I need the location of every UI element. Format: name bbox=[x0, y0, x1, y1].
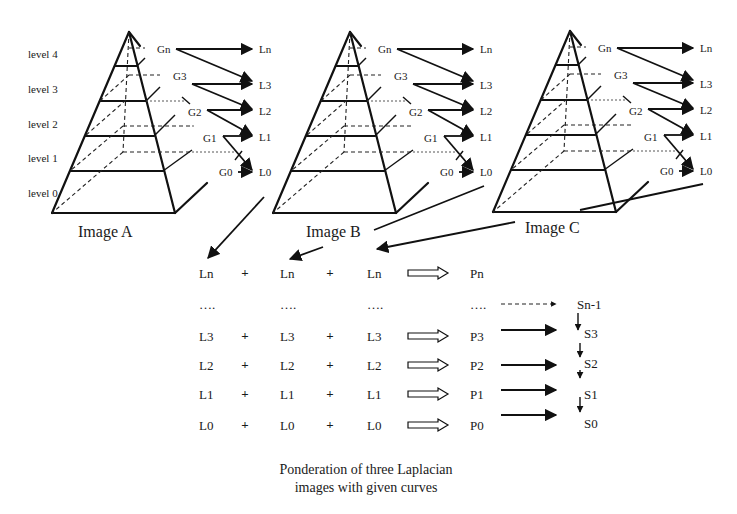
sum-label: S1 bbox=[584, 387, 598, 402]
sum-column: Sn-1 S3 S2 S1 S0 bbox=[501, 297, 602, 431]
pyramid-image-b: Gn G3 G2 G1 G0 Ln L3 L2 L1 L0 Image B bbox=[273, 32, 493, 241]
plus-icon: + bbox=[241, 386, 248, 401]
combination-table: LnLnLnPn++….….….….L3L3L3P3++L2L2L2P2++L1… bbox=[199, 265, 486, 433]
cell-b: Ln bbox=[280, 266, 295, 281]
laplacian-label: Ln bbox=[480, 43, 493, 55]
laplacian-label: L1 bbox=[700, 130, 712, 142]
plus-icon: + bbox=[326, 328, 333, 343]
laplacian-label: L0 bbox=[480, 166, 493, 178]
pyramid-image-c: Gn G3 G2 G1 G0 Ln L3 L2 L1 L0 Image C bbox=[493, 31, 713, 237]
gaussian-label: G3 bbox=[394, 70, 408, 82]
caption-line-1: Ponderation of three Laplacian bbox=[280, 462, 453, 477]
hollow-arrow-icon bbox=[408, 267, 448, 279]
cell-b: L0 bbox=[280, 418, 294, 433]
gaussian-label: G1 bbox=[203, 132, 216, 144]
cell-b: L2 bbox=[280, 358, 294, 373]
level-label: level 4 bbox=[28, 48, 58, 60]
sum-label: S2 bbox=[584, 356, 598, 371]
gaussian-label: Gn bbox=[157, 43, 171, 55]
pyramid-title: Image C bbox=[525, 219, 580, 237]
cell-a: …. bbox=[199, 297, 215, 312]
cell-b: …. bbox=[280, 297, 296, 312]
laplacian-label: L0 bbox=[259, 166, 272, 178]
cell-p: P1 bbox=[470, 387, 484, 402]
cell-p: P3 bbox=[470, 329, 484, 344]
sum-label: S3 bbox=[584, 326, 598, 341]
gaussian-label: G0 bbox=[440, 166, 454, 178]
laplacian-label: L2 bbox=[700, 104, 712, 116]
caption: Ponderation of three Laplacian images wi… bbox=[280, 462, 453, 495]
gaussian-label: G1 bbox=[644, 131, 657, 143]
gaussian-label: G2 bbox=[409, 106, 422, 118]
gaussian-label: G2 bbox=[188, 106, 201, 118]
cell-a: Ln bbox=[199, 266, 214, 281]
level-label: level 1 bbox=[28, 152, 58, 164]
cell-a: L1 bbox=[199, 387, 213, 402]
laplacian-label: Ln bbox=[259, 43, 272, 55]
level-label: level 0 bbox=[28, 187, 58, 199]
cell-a: L0 bbox=[199, 418, 213, 433]
laplacian-label: Ln bbox=[700, 42, 713, 54]
level-label: level 3 bbox=[28, 83, 58, 95]
cell-p: P2 bbox=[470, 358, 484, 373]
hollow-arrow-icon bbox=[408, 388, 448, 400]
gaussian-label: G0 bbox=[219, 166, 233, 178]
pyramid-to-table-connectors bbox=[208, 184, 703, 259]
cell-c: …. bbox=[367, 297, 383, 312]
hollow-arrow-icon bbox=[408, 330, 448, 342]
plus-icon: + bbox=[241, 328, 248, 343]
cell-p: Pn bbox=[470, 266, 484, 281]
cell-p: P0 bbox=[470, 418, 484, 433]
cell-a: L2 bbox=[199, 358, 213, 373]
laplacian-label: L3 bbox=[259, 79, 272, 91]
cell-c: L0 bbox=[367, 418, 381, 433]
level-labels: level 4 level 3 level 2 level 1 level 0 bbox=[28, 48, 58, 199]
laplacian-label: L1 bbox=[259, 131, 271, 143]
laplacian-pyramid-fusion-diagram: level 4 level 3 level 2 level 1 level 0 bbox=[0, 0, 737, 514]
plus-icon: + bbox=[326, 386, 333, 401]
pyramid-title: Image A bbox=[78, 223, 133, 241]
pyramid-image-a: Gn G3 G2 G1 G0 Ln L3 L2 L1 L0 Image A bbox=[52, 32, 272, 241]
gaussian-label: G3 bbox=[173, 70, 187, 82]
gaussian-label: G1 bbox=[424, 132, 437, 144]
laplacian-label: L0 bbox=[700, 165, 713, 177]
plus-icon: + bbox=[326, 417, 333, 432]
cell-c: Ln bbox=[367, 266, 382, 281]
hollow-arrow-icon bbox=[408, 419, 448, 431]
cell-c: L1 bbox=[367, 387, 381, 402]
plus-icon: + bbox=[326, 265, 333, 280]
laplacian-label: L2 bbox=[480, 105, 492, 117]
gaussian-label: G3 bbox=[614, 69, 628, 81]
sum-label: S0 bbox=[584, 416, 598, 431]
plus-icon: + bbox=[326, 357, 333, 372]
laplacian-label: L3 bbox=[700, 78, 713, 90]
level-label: level 2 bbox=[28, 118, 58, 130]
plus-icon: + bbox=[241, 417, 248, 432]
laplacian-label: L2 bbox=[259, 105, 271, 117]
cell-b: L1 bbox=[280, 387, 294, 402]
cell-c: L2 bbox=[367, 358, 381, 373]
cell-p: …. bbox=[470, 297, 486, 312]
cell-b: L3 bbox=[280, 329, 294, 344]
laplacian-label: L1 bbox=[480, 131, 492, 143]
pyramid-title: Image B bbox=[306, 223, 361, 241]
caption-line-2: images with given curves bbox=[295, 480, 438, 495]
gaussian-label: G2 bbox=[629, 105, 642, 117]
sum-label: Sn-1 bbox=[577, 297, 602, 312]
gaussian-label: Gn bbox=[598, 42, 612, 54]
gaussian-label: G0 bbox=[660, 165, 674, 177]
cell-a: L3 bbox=[199, 329, 213, 344]
cell-c: L3 bbox=[367, 329, 381, 344]
plus-icon: + bbox=[241, 265, 248, 280]
plus-icon: + bbox=[241, 357, 248, 372]
hollow-arrow-icon bbox=[408, 359, 448, 371]
gaussian-label: Gn bbox=[378, 43, 392, 55]
laplacian-label: L3 bbox=[480, 79, 493, 91]
